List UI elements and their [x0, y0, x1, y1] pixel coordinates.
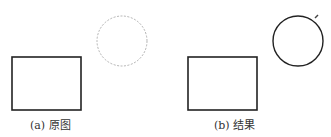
caption-a: (a) 原图 — [30, 116, 71, 132]
result-circle — [273, 16, 323, 66]
original-circle-dashed — [97, 16, 147, 66]
original-rectangle — [12, 57, 81, 110]
result-marker-icon — [315, 15, 318, 18]
result-rectangle — [188, 57, 257, 110]
caption-b: (b) 结果 — [214, 116, 255, 132]
